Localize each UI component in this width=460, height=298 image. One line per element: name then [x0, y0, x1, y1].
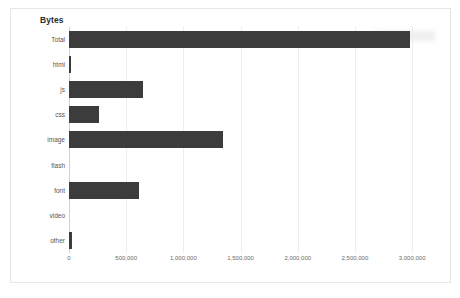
x-tick-label: 1,500,000	[227, 255, 254, 261]
category-label-image: image	[47, 127, 65, 152]
chart-title: Bytes	[40, 15, 64, 25]
x-tick-label: 500,000	[115, 255, 137, 261]
category-axis-labels: Totalhtmljscssimageflashfontvideoother	[35, 27, 65, 253]
category-label-video: video	[49, 203, 65, 228]
bar-css[interactable]	[69, 106, 99, 123]
bar-row[interactable]	[69, 228, 435, 253]
bar-row[interactable]	[69, 178, 435, 203]
bar-js[interactable]	[69, 81, 143, 98]
x-tick-labels: 0500,0001,000,0001,500,0002,000,0002,500…	[69, 255, 435, 271]
bar-row[interactable]	[69, 77, 435, 102]
bar-series	[69, 27, 435, 253]
bar-row[interactable]	[69, 52, 435, 77]
bar-row[interactable]	[69, 102, 435, 127]
bar-other[interactable]	[69, 232, 72, 249]
bar-image[interactable]	[69, 131, 223, 148]
bar-row[interactable]	[69, 153, 435, 178]
category-label-html: html	[53, 52, 65, 77]
category-label-css: css	[55, 102, 65, 127]
chart-plot-area: Totalhtmljscssimageflashfontvideoother 0…	[35, 27, 435, 271]
bar-row[interactable]	[69, 203, 435, 228]
x-tick-label: 3,000,000	[399, 255, 426, 261]
x-tick-label: 2,000,000	[284, 255, 311, 261]
category-label-other: other	[50, 228, 65, 253]
x-tick-label: 1,000,000	[170, 255, 197, 261]
category-label-font: font	[54, 178, 65, 203]
x-tick-label: 2,500,000	[342, 255, 369, 261]
category-label-js: js	[60, 77, 65, 102]
category-label-flash: flash	[51, 153, 65, 178]
bar-total[interactable]	[69, 31, 410, 48]
bar-row[interactable]	[69, 27, 435, 52]
x-tick-label: 0	[67, 255, 70, 261]
bar-html[interactable]	[69, 56, 71, 73]
bar-row[interactable]	[69, 127, 435, 152]
bytes-chart-card: Bytes Totalhtmljscssimageflashfontvideoo…	[10, 8, 451, 283]
bar-font[interactable]	[69, 182, 139, 199]
category-label-total: Total	[51, 27, 65, 52]
